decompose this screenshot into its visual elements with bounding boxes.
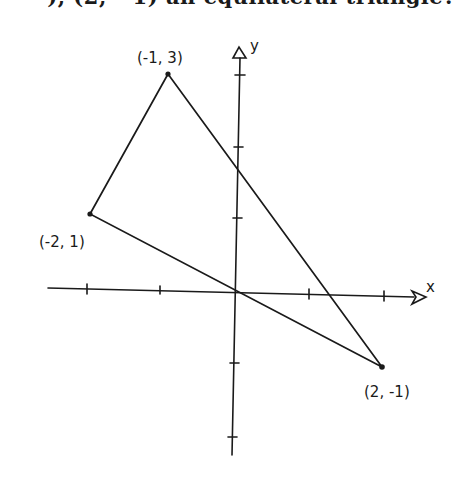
vertex-point — [379, 364, 385, 370]
y-axis-arrow-icon — [233, 47, 246, 58]
x-axis — [48, 288, 414, 297]
coordinate-plane: (-1, 3) (-2, 1) (2, -1) y x — [0, 0, 464, 477]
vertex-point — [87, 211, 92, 216]
vertex-label: (-1, 3) — [137, 49, 183, 67]
vertex-label: (2, -1) — [364, 383, 410, 401]
y-axis-label: y — [250, 37, 259, 55]
x-axis-label: x — [426, 278, 435, 296]
vertex-point — [165, 71, 170, 76]
vertex-label: (-2, 1) — [39, 233, 85, 251]
y-axis — [232, 58, 240, 455]
